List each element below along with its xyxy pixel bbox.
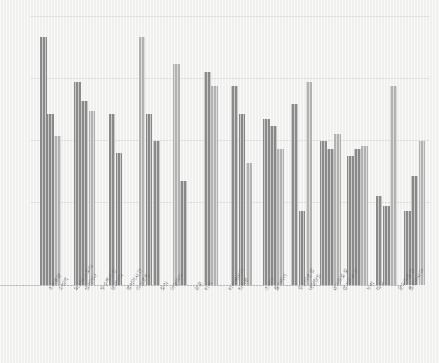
x-axis-labels: 소비총량소비액퍼스널스토어생기거나부수적수단생산나이열의이시간아스코헐로이아열리… <box>0 288 439 363</box>
bar <box>204 72 211 285</box>
bar <box>89 111 96 285</box>
bar <box>246 163 253 285</box>
bar <box>419 141 426 285</box>
bar <box>74 82 81 286</box>
bar <box>327 149 334 286</box>
bar <box>354 149 361 286</box>
bar <box>306 82 313 286</box>
bar <box>383 206 390 285</box>
bar <box>180 181 187 285</box>
bar <box>263 119 270 285</box>
bar <box>376 196 383 285</box>
bar <box>390 86 397 285</box>
bar <box>109 114 116 285</box>
bars-layer <box>30 12 430 285</box>
bar <box>347 156 354 285</box>
bar <box>211 86 218 285</box>
bar <box>277 149 284 286</box>
bar <box>116 153 123 285</box>
bar <box>139 37 146 285</box>
bar <box>47 114 54 285</box>
bar <box>334 134 341 285</box>
bar <box>40 37 47 285</box>
bar <box>153 141 160 285</box>
bar <box>54 136 61 285</box>
bar <box>270 126 277 285</box>
bar <box>231 86 238 285</box>
bar <box>239 114 246 285</box>
bar-chart: 소비총량소비액퍼스널스토어생기거나부수적수단생산나이열의이시간아스코헐로이아열리… <box>0 0 439 363</box>
bar <box>361 146 368 285</box>
bar <box>146 114 153 285</box>
bar <box>81 101 88 285</box>
bar <box>320 141 327 285</box>
bar <box>173 64 180 285</box>
bar <box>291 104 298 285</box>
